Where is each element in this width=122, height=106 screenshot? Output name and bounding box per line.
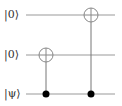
control-dot-icon (43, 91, 50, 98)
cnot-gate-1 (39, 48, 53, 98)
control-dot-icon (88, 91, 95, 98)
cnot-gate-2 (84, 8, 98, 98)
circuit-diagram (0, 0, 122, 106)
